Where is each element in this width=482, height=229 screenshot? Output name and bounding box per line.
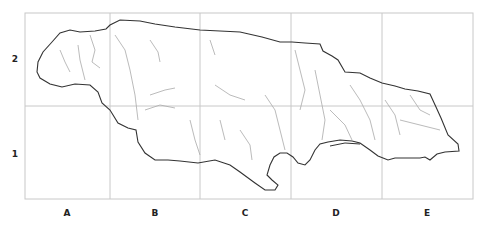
col-label-e: E — [424, 208, 430, 218]
map-canvas — [0, 0, 482, 229]
col-label-c: C — [242, 208, 249, 218]
row-label-1: 1 — [12, 149, 18, 159]
island-map: 2 1 A B C D E — [0, 0, 482, 229]
coastline — [37, 20, 459, 190]
col-label-d: D — [332, 208, 339, 218]
row-label-2: 2 — [12, 54, 18, 64]
rivers — [60, 35, 440, 160]
col-label-a: A — [64, 208, 71, 218]
col-label-b: B — [152, 208, 159, 218]
harbour-spit — [330, 143, 360, 146]
